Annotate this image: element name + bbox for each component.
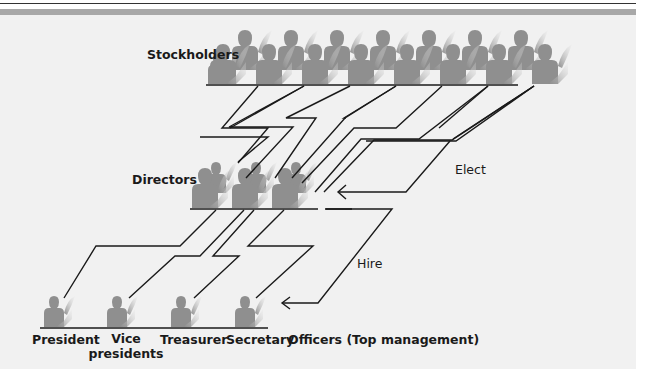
stockholders-figures xyxy=(208,30,572,84)
officers-group-label: Officers (Top management) xyxy=(288,332,479,347)
officer-treasurer-label: Treasurer xyxy=(160,332,227,347)
elect-arrow xyxy=(338,141,450,199)
elect-label: Elect xyxy=(455,162,486,177)
officers-figures xyxy=(44,296,266,327)
stockholders-label: Stockholders xyxy=(147,47,239,62)
officer-secretary-label: Secretary xyxy=(226,332,294,347)
officer-vice-presidents-label: Vice presidents xyxy=(88,331,164,361)
directors-label: Directors xyxy=(132,172,197,187)
hire-label: Hire xyxy=(357,256,382,271)
director-appoint-lines xyxy=(64,210,313,298)
governance-diagram xyxy=(0,0,645,388)
